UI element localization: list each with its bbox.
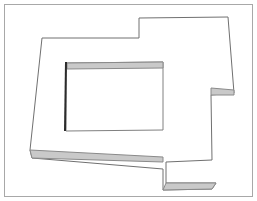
- slab-opening-outline: [66, 62, 163, 131]
- edge-band-bottom-right: [163, 183, 216, 190]
- opening-left-riser: [65, 62, 66, 131]
- thick-edge-group: [65, 62, 66, 131]
- drawing-canvas: Floor Slab Outline Drawing: [0, 0, 257, 201]
- shape-drawing: [0, 0, 257, 201]
- edge-band-opening-top: [67, 62, 163, 69]
